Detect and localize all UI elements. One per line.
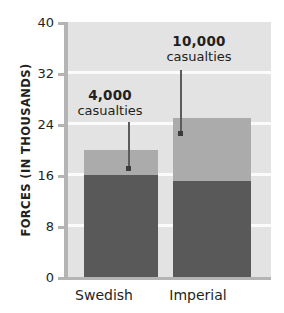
y-tick-mark-16	[58, 175, 65, 178]
gridline-32	[68, 71, 271, 74]
y-tick-label-32: 32	[14, 67, 54, 80]
y-axis-spine	[64, 22, 68, 280]
annotation-swedish-leader-line	[128, 122, 130, 168]
y-tick-mark-40	[58, 22, 65, 25]
annotation-swedish-casualties: 4,000 casualties	[62, 88, 158, 118]
annotation-swedish-leader-dot	[126, 166, 131, 171]
y-tick-mark-0	[58, 277, 65, 280]
annotation-imperial-casualties: 10,000 casualties	[144, 34, 254, 64]
y-tick-label-16: 16	[14, 169, 54, 182]
annotation-swedish-value: 4,000	[62, 88, 158, 103]
y-tick-mark-24	[58, 124, 65, 127]
y-tick-label-24: 24	[14, 118, 54, 131]
y-tick-label-8: 8	[14, 220, 54, 233]
bar-imperial	[173, 118, 251, 277]
bar-segment-swedish-casualties	[84, 150, 158, 176]
annotation-imperial-value: 10,000	[144, 34, 254, 49]
bar-chart: FORCES (IN THOUSANDS) 40 32 24 16 8 0 Sw…	[0, 0, 284, 313]
y-tick-mark-32	[58, 73, 65, 76]
y-tick-mark-8	[58, 226, 65, 229]
bar-segment-swedish-forces	[84, 175, 158, 277]
annotation-imperial-leader-dot	[178, 131, 183, 136]
annotation-imperial-unit: casualties	[144, 49, 254, 64]
annotation-swedish-unit: casualties	[62, 103, 158, 118]
bar-swedish	[84, 150, 158, 278]
bar-segment-imperial-casualties	[173, 118, 251, 182]
annotation-imperial-leader-line	[180, 70, 182, 133]
x-tick-label-imperial: Imperial	[156, 287, 240, 303]
x-axis-spine	[64, 277, 271, 280]
y-tick-label-0: 0	[14, 271, 54, 284]
x-tick-label-swedish: Swedish	[66, 287, 142, 303]
bar-segment-imperial-forces	[173, 181, 251, 277]
y-tick-label-40: 40	[14, 16, 54, 29]
